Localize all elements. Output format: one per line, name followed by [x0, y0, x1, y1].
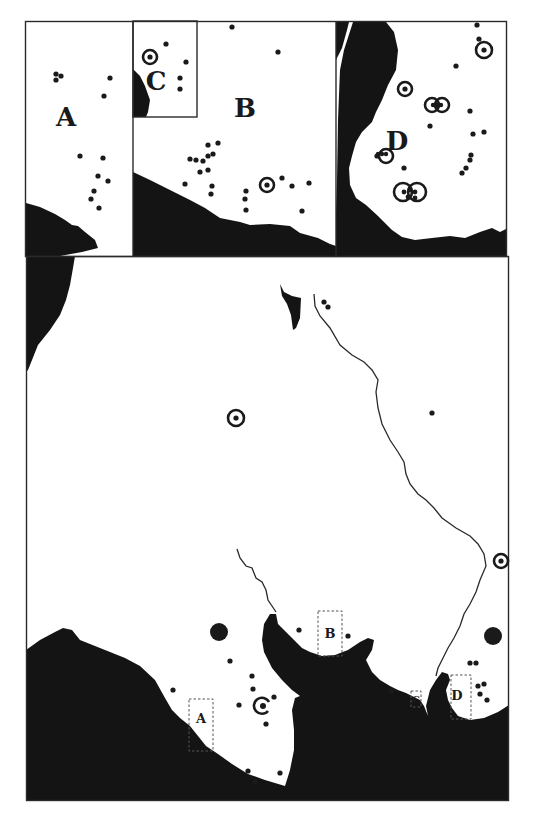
site-dot [243, 188, 248, 193]
inset-label-a: A [55, 102, 77, 132]
ringed-site-marker [143, 50, 157, 64]
main-map [26, 256, 509, 801]
site-dot [227, 658, 232, 663]
site-dot [296, 627, 301, 632]
labels-layer: ABCDABCD [55, 66, 471, 751]
map-canvas: ABCDABCD [0, 0, 535, 817]
site-dot [242, 196, 247, 201]
site-dot [107, 75, 112, 80]
spiral-site-marker [254, 698, 269, 714]
main-sea-south [26, 614, 509, 800]
inset-label-c: C [146, 66, 167, 96]
site-dot [105, 178, 110, 183]
site-dot [236, 702, 241, 707]
island [280, 284, 301, 330]
site-dot [306, 180, 311, 185]
map-figure: ABCDABCD [0, 0, 535, 817]
site-dot [481, 681, 486, 686]
site-dot [453, 63, 458, 68]
svg-text:C: C [412, 694, 420, 705]
site-dot [229, 24, 234, 29]
site-dot [427, 123, 432, 128]
large-site-marker [210, 623, 228, 641]
site-dot [271, 694, 276, 699]
ringed-site-marker [398, 82, 412, 96]
site-dot [96, 205, 101, 210]
inset-a [26, 203, 98, 256]
site-dot [401, 165, 406, 170]
site-dot [187, 156, 192, 161]
site-dot [475, 683, 480, 688]
site-dot [467, 660, 472, 665]
svg-text:D: D [451, 688, 462, 703]
locator-box-c: C [411, 691, 421, 707]
site-dot [53, 71, 58, 76]
site-dot [249, 673, 254, 678]
site-dot [277, 770, 282, 775]
inset-a-sea [26, 203, 98, 256]
site-dot [209, 183, 214, 188]
main-sea-northwest [26, 256, 75, 372]
site-dot [88, 196, 93, 201]
site-dot [170, 687, 175, 692]
site-dot [429, 410, 434, 415]
site-dot [476, 36, 481, 41]
site-dot [463, 165, 468, 170]
site-dot [477, 691, 482, 696]
site-dot [101, 93, 106, 98]
site-dot [325, 304, 330, 309]
inset-panel-frame [26, 22, 507, 257]
site-dot [279, 175, 284, 180]
ringed-site-marker [260, 178, 274, 192]
site-dot [210, 151, 215, 156]
site-dot [459, 170, 464, 175]
clustered-ring-marker [425, 98, 449, 112]
site-dot [250, 686, 255, 691]
site-dot [289, 183, 294, 188]
site-dot [474, 22, 479, 27]
site-dot [321, 299, 326, 304]
river-tributary [237, 549, 276, 612]
site-dot [200, 158, 205, 163]
ringed-site-marker [494, 554, 508, 568]
site-dot [95, 173, 100, 178]
site-dot [193, 157, 198, 162]
site-dot [177, 86, 182, 91]
site-dot [183, 59, 188, 64]
site-dot [470, 131, 475, 136]
site-dot [299, 208, 304, 213]
locator-box-b: B [318, 611, 342, 656]
site-dot [467, 157, 472, 162]
site-dot [245, 768, 250, 773]
site-dot [208, 191, 213, 196]
site-dot [215, 140, 220, 145]
site-dot [53, 77, 58, 82]
site-dot [177, 75, 182, 80]
inset-b [133, 172, 336, 256]
inset-panel [26, 21, 507, 257]
site-dot [263, 721, 268, 726]
site-dot [205, 142, 210, 147]
site-dot [91, 188, 96, 193]
site-dot [77, 153, 82, 158]
site-dot [467, 108, 472, 113]
site-dot [182, 181, 187, 186]
site-dot [163, 41, 168, 46]
clustered-ring-marker [394, 183, 426, 201]
site-dot [345, 633, 350, 638]
site-dot [205, 167, 210, 172]
large-site-marker [484, 627, 502, 645]
site-dot [100, 155, 105, 160]
site-dot [205, 153, 210, 158]
inset-label-b: B [234, 93, 256, 123]
inset-label-d: D [386, 126, 409, 156]
site-dot [473, 660, 478, 665]
site-dot [481, 129, 486, 134]
site-dot [243, 207, 248, 212]
ringed-site-marker [228, 410, 244, 426]
site-dot [252, 779, 257, 784]
svg-text:A: A [195, 711, 207, 726]
site-dot [58, 73, 63, 78]
site-dot [468, 152, 473, 157]
svg-text:B: B [325, 626, 336, 641]
